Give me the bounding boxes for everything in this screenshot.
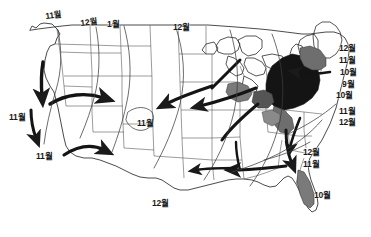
month-label-gulf-12: 12월 [303, 148, 320, 157]
pacific-coast-southbound [41, 62, 43, 96]
month-label-ne-11: 11월 [339, 56, 355, 65]
month-label-central-11: 11월 [137, 119, 153, 128]
month-label-south-12: 12월 [152, 199, 169, 208]
us-map-drawing [0, 0, 371, 237]
month-label-ncentral-12: 12월 [173, 23, 190, 32]
month-label-mid-9: 9월 [342, 80, 354, 89]
month-label-ne-12: 12월 [339, 44, 356, 53]
month-label-se-12: 12월 [339, 118, 356, 127]
month-label-mid-10: 10월 [336, 91, 353, 100]
month-label-sw-11: 11월 [36, 152, 52, 161]
month-label-se-11: 11월 [339, 107, 355, 116]
month-label-n-1: 1월 [107, 20, 119, 29]
month-label-gulf-11: 11월 [303, 160, 319, 169]
migration-map-figure: 11월 12월 1월 12월 11월 11월 11월 12월 12월 11월 1… [0, 0, 371, 237]
month-label-w-11: 11월 [9, 113, 25, 122]
month-label-ne-10: 10월 [340, 68, 357, 77]
month-label-florida-10: 10월 [314, 191, 331, 200]
